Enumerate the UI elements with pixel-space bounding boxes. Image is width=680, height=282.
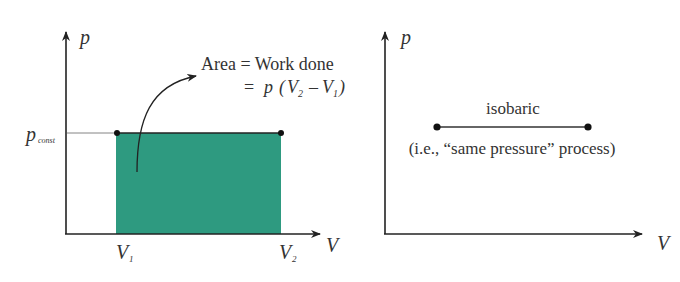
svg-text:1: 1	[333, 88, 338, 99]
state-point-2	[278, 130, 284, 136]
svg-text:–: –	[308, 77, 319, 97]
p-const-label: p const	[24, 123, 56, 146]
state-point-2	[584, 123, 591, 130]
y-axis-label: p	[399, 26, 411, 49]
svg-text:2: 2	[298, 88, 303, 99]
svg-text:const: const	[38, 136, 56, 145]
y-axis-label: p	[78, 26, 90, 49]
svg-text:p: p	[262, 77, 273, 97]
isobaric-label: isobaric	[486, 99, 540, 118]
svg-text:p: p	[24, 123, 36, 146]
svg-text:2: 2	[292, 254, 297, 264]
pv-diagrams: p V p const V 1 V 2 Area = Work done = p…	[0, 0, 680, 282]
svg-text:(: (	[279, 77, 286, 98]
x-axis-label: V	[657, 232, 672, 254]
svg-text:1: 1	[129, 254, 134, 264]
svg-text:=: =	[244, 77, 254, 97]
state-point-1	[114, 130, 120, 136]
work-area-fill	[116, 133, 281, 234]
annotation-line-1: Area = Work done	[201, 54, 334, 74]
svg-text:): )	[338, 77, 345, 98]
left-diagram: p V p const V 1 V 2 Area = Work done = p…	[24, 26, 345, 264]
process-note: (i.e., “same pressure” process)	[409, 139, 616, 158]
right-diagram: p V isobaric (i.e., “same pressure” proc…	[384, 26, 672, 254]
state-point-1	[433, 123, 440, 130]
v1-label: V 1	[116, 241, 134, 264]
x-axis-label: V	[326, 234, 341, 256]
annotation-line-2: = p ( V 2 – V 1 )	[244, 77, 345, 99]
v2-label: V 2	[279, 241, 297, 264]
